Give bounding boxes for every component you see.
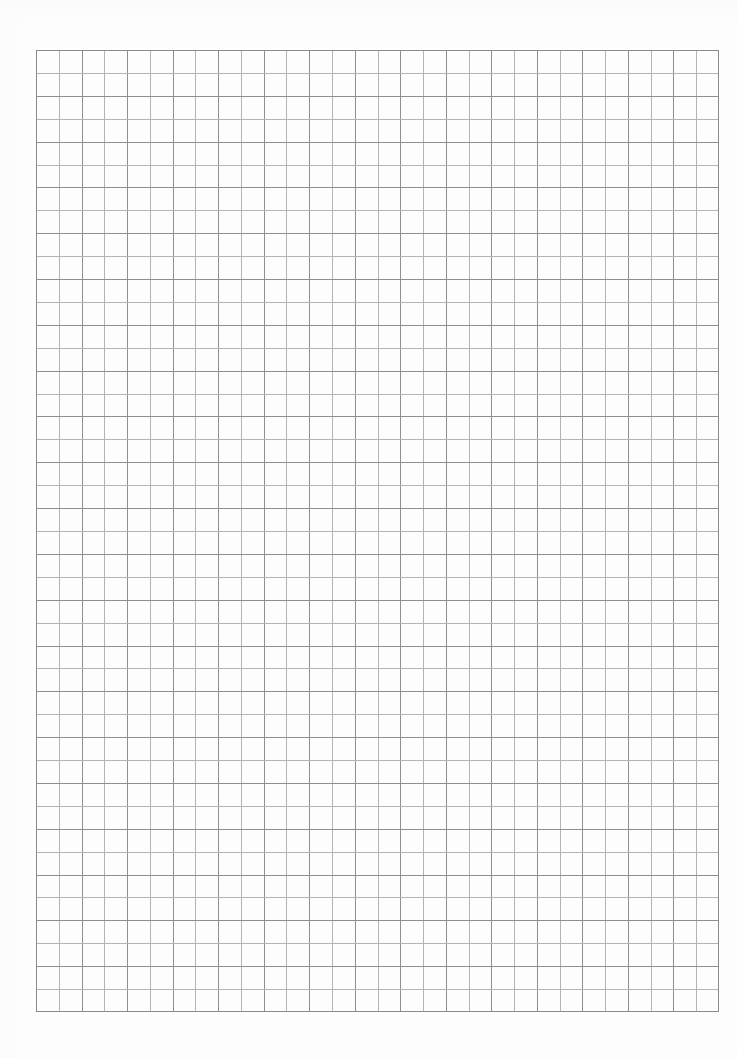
scan-edge-left: [0, 0, 22, 1058]
graph-paper-page: [0, 0, 737, 1058]
grid-horizontal-lines: [36, 74, 719, 990]
scan-edge-top: [0, 0, 737, 26]
grid-area: [36, 50, 719, 1012]
grid-lines-svg: [36, 50, 719, 1012]
